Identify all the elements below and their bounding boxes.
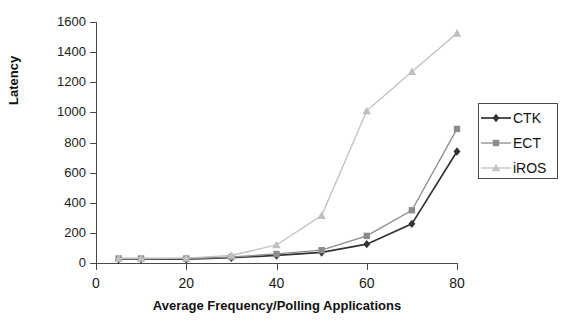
data-point-marker: [363, 240, 370, 248]
y-axis-line: [96, 22, 97, 264]
x-tick-label: 80: [449, 275, 465, 291]
x-tick-mark: [277, 263, 278, 270]
series-line: [119, 33, 457, 258]
x-tick-label: 40: [269, 275, 285, 291]
legend-item-ect[interactable]: ECT: [479, 130, 559, 155]
legend-marker-triangle-icon: [479, 159, 513, 177]
y-tick-label: 200: [42, 225, 86, 240]
data-point-marker: [454, 147, 461, 155]
data-point-marker: [115, 255, 121, 261]
y-tick-label: 1400: [42, 44, 86, 59]
data-point-marker: [364, 233, 370, 239]
data-point-marker: [408, 68, 416, 76]
data-point-marker: [318, 247, 324, 253]
data-point-marker: [114, 254, 122, 262]
series-ctk: [115, 147, 460, 263]
y-tick-label: 0: [42, 255, 86, 270]
data-point-marker: [454, 126, 460, 132]
x-tick-label: 20: [178, 275, 194, 291]
series-iros: [114, 29, 461, 262]
data-point-marker: [183, 255, 189, 261]
legend-marker-square-icon: [479, 134, 513, 152]
data-point-marker: [273, 251, 280, 259]
data-point-marker: [137, 254, 145, 262]
legend-marker-diamond-icon: [479, 109, 513, 127]
legend-label: iROS: [513, 161, 546, 175]
x-tick-label: 60: [359, 275, 375, 291]
data-point-marker: [363, 107, 371, 115]
data-point-marker: [318, 248, 325, 256]
y-tick-label: 1000: [42, 104, 86, 119]
x-tick-mark: [186, 263, 187, 270]
series-line: [119, 152, 457, 260]
data-point-marker: [317, 211, 325, 219]
data-point-marker: [138, 255, 144, 261]
y-tick-label: 600: [42, 165, 86, 180]
data-point-marker: [272, 241, 280, 249]
legend-item-iros[interactable]: iROS: [479, 155, 559, 180]
y-tick-label: 1200: [42, 74, 86, 89]
y-axis-title: Latency: [6, 56, 21, 105]
data-point-marker: [453, 29, 461, 37]
data-point-marker: [182, 254, 190, 262]
series-line: [119, 129, 457, 259]
data-point-marker: [409, 207, 415, 213]
x-tick-mark: [96, 263, 97, 270]
y-tick-label: 1600: [42, 14, 86, 29]
data-point-marker: [228, 254, 234, 260]
data-point-marker: [228, 254, 235, 262]
data-point-marker: [227, 251, 235, 259]
data-point-marker: [408, 220, 415, 228]
chart-page: Latency 02004006008001000120014001600 02…: [0, 0, 582, 331]
legend-label: ECT: [513, 136, 541, 150]
legend-label: CTK: [513, 111, 541, 125]
legend-item-ctk[interactable]: CTK: [479, 105, 559, 130]
y-tick-label: 400: [42, 195, 86, 210]
x-tick-mark: [367, 263, 368, 270]
x-axis-title: Average Frequency/Polling Applications: [96, 298, 458, 313]
x-tick-mark: [457, 263, 458, 270]
x-tick-label: 0: [92, 275, 100, 291]
series-ect: [115, 126, 460, 262]
data-point-marker: [273, 251, 279, 257]
y-tick-label: 800: [42, 135, 86, 150]
legend: CTKECTiROS: [478, 103, 558, 179]
